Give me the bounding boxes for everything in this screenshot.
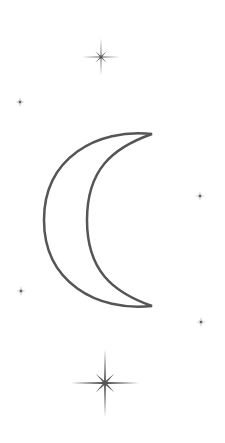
background (0, 0, 225, 443)
moon-and-stars-illustration (0, 0, 225, 443)
